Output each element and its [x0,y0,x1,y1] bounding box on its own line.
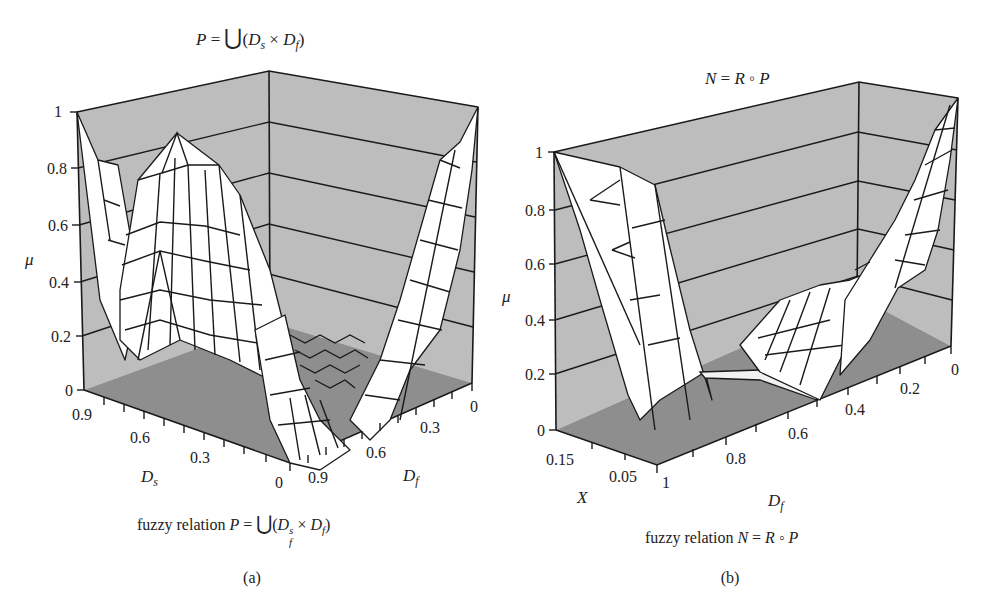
x-tick-label: 0 [275,474,283,491]
x-tick-label: 0.15 [546,451,574,468]
z-axis-b: 1 0.8 0.6 0.4 0.2 0 μ [501,144,556,439]
z-tick-label: 0.4 [525,312,545,329]
z-axis-label-b: μ [501,287,511,306]
y-tick-label: 0.6 [788,425,808,442]
y-tick-label: 0.9 [308,469,328,486]
z-tick-label: 0.8 [47,160,67,177]
y-axis-label-b: Df [767,491,785,513]
sublabel-b: (b) [721,569,740,587]
z-tick-label: 0.2 [525,366,545,383]
sublabel-a: (a) [243,569,261,587]
z-tick-label: 0.2 [51,328,71,345]
z-tick-label: 0.6 [48,217,68,234]
chart-panel-a: P = ⋃(Ds × Df) [0,0,490,611]
chart-title-b: N = R ◦ P [704,69,770,88]
surface-plot-b: N = R ◦ P [490,0,985,611]
caption-b: fuzzy relation N = R ◦ P [645,529,799,547]
z-axis-a: 1 0.8 0.6 0.4 0.2 0 μ [24,103,84,399]
z-tick-label: 0.4 [49,274,69,291]
z-tick-label: 0 [537,422,545,439]
x-tick-label: 0.3 [190,449,210,466]
y-tick-label: 0.8 [726,450,746,467]
caption-a: fuzzy relation P = ⋃(Ds × Df) [137,512,330,536]
z-tick-label: 0.6 [525,256,545,273]
y-tick-label: 0 [951,361,959,378]
y-tick-label: 0.6 [366,444,386,461]
y-tick-label: 0.4 [845,401,865,418]
y-axis-label-a: Df [402,466,420,488]
x-axis-label-b: X [576,488,588,507]
y-tick-label: 1 [662,474,670,491]
z-tick-label: 1 [535,144,543,161]
caption-union-subscript-a: f [289,536,294,548]
z-tick-label: 0.8 [525,202,545,219]
z-tick-label: 1 [54,103,62,120]
z-tick-label: 0 [65,382,73,399]
y-tick-label: 0.3 [420,419,440,436]
y-tick-label: 0 [470,398,478,415]
x-tick-label: 0.6 [130,429,150,446]
y-tick-label: 0.2 [900,380,920,397]
x-axis-label-a: Ds [140,467,158,489]
chart-title-a: P = ⋃(Ds × Df) [195,25,305,52]
x-tick-label: 0.05 [609,468,637,485]
x-tick-label: 0.9 [72,406,92,423]
chart-panel-b: N = R ◦ P [490,0,985,611]
z-axis-label-a: μ [24,250,34,269]
surface-plot-a: P = ⋃(Ds × Df) [0,0,490,611]
